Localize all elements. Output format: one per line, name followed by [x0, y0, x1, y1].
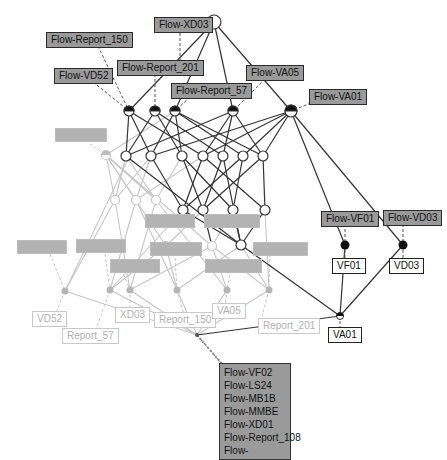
- faded-attribute-label[interactable]: [17, 240, 67, 254]
- label-flow-vd03[interactable]: Flow-VD03: [383, 210, 442, 226]
- label-va05[interactable]: VA05: [212, 303, 246, 319]
- faded-attribute-label[interactable]: [76, 239, 126, 253]
- label-flow-vf01[interactable]: Flow-VF01: [321, 211, 379, 227]
- label-report-57[interactable]: Report_57: [62, 328, 119, 344]
- label-flow-report-201[interactable]: Flow-Report_201: [117, 60, 204, 76]
- label-xd03[interactable]: XD03: [115, 307, 150, 323]
- bottom-label-line: Flow-MMBE: [224, 405, 286, 418]
- label-flow-va01[interactable]: Flow-VA01: [309, 89, 367, 105]
- faded-half-node[interactable]: [102, 151, 111, 160]
- faded-attribute-label[interactable]: [150, 242, 202, 256]
- faded-attribute-label[interactable]: [253, 242, 308, 256]
- faded-attribute-label[interactable]: [110, 259, 160, 273]
- faded-attribute-label[interactable]: [55, 128, 107, 142]
- label-flow-report-150[interactable]: Flow-Report_150: [46, 32, 133, 48]
- label-flow-vd52[interactable]: Flow-VD52: [54, 68, 113, 84]
- va01-node[interactable]: [337, 313, 344, 320]
- bottom-label-line: Flow-LS24: [224, 379, 286, 392]
- label-report-150[interactable]: Report_150: [154, 312, 216, 328]
- faded-attribute-label[interactable]: [145, 214, 195, 228]
- label-vd52[interactable]: VD52: [32, 311, 67, 327]
- faded-object-dots[interactable]: [62, 287, 273, 295]
- label-va01[interactable]: VA01: [328, 327, 362, 343]
- half-filled-nodes[interactable]: [124, 105, 297, 117]
- faded-attribute-label[interactable]: [205, 259, 262, 273]
- bottom-concept-label[interactable]: Flow-VF02 Flow-LS24 Flow-MB1B Flow-MMBE …: [219, 363, 291, 460]
- faded-attribute-label[interactable]: [204, 214, 260, 228]
- bottom-label-line: Flow-MB1B: [224, 392, 286, 405]
- bottom-node[interactable]: [195, 333, 199, 337]
- bottom-label-line: Flow-Report_108: [224, 431, 286, 444]
- label-flow-report-57[interactable]: Flow-Report_57: [171, 83, 252, 99]
- label-vd03[interactable]: VD03: [389, 258, 424, 274]
- bottom-label-line: Flow-: [224, 444, 286, 457]
- filled-object-nodes[interactable]: [341, 241, 408, 250]
- label-flow-va05[interactable]: Flow-VA05: [246, 65, 304, 81]
- label-flow-xd03[interactable]: Flow-XD03: [154, 17, 213, 33]
- bottom-label-line: Flow-XD01: [224, 418, 286, 431]
- bottom-label-line: Flow-VF02: [224, 366, 286, 379]
- label-vf01[interactable]: VF01: [332, 258, 366, 274]
- label-report-201[interactable]: Report_201: [258, 318, 320, 334]
- bottom-dashed-connector: [197, 335, 222, 364]
